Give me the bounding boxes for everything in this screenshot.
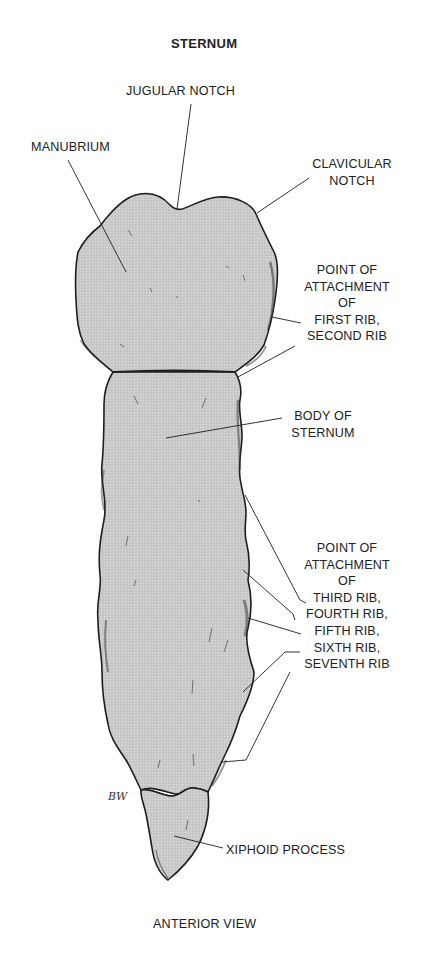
label-manubrium: MANUBRIUM <box>31 139 110 156</box>
label-line: POINT OF <box>293 262 401 279</box>
label-attachment-first-second-rib: POINT OF ATTACHMENT OF FIRST RIB, SECOND… <box>293 262 401 345</box>
label-line: FIRST RIB, <box>293 312 401 329</box>
label-line: ATTACHMENT <box>293 279 401 296</box>
label-line: SECOND RIB <box>293 328 401 345</box>
xiphoid-process-shape <box>141 788 209 880</box>
label-attachment-third-to-seventh-rib: POINT OF ATTACHMENT OF THIRD RIB, FOURTH… <box>293 540 401 673</box>
label-line: OF <box>293 573 401 590</box>
label-line: THIRD RIB, <box>293 590 401 607</box>
body-of-sternum-shape <box>98 372 254 794</box>
label-line: SEVENTH RIB <box>293 656 401 673</box>
label-line: STERNUM <box>283 425 363 442</box>
label-line: CLAVICULAR <box>300 156 404 173</box>
label-line: FOURTH RIB, <box>293 606 401 623</box>
sternum-diagram: BW STERNUM JUGULAR NOTCH MANUBRIUM CLAVI… <box>0 0 421 972</box>
label-xiphoid-process: XIPHOID PROCESS <box>226 842 345 859</box>
label-line: ATTACHMENT <box>293 557 401 574</box>
label-clavicular-notch: CLAVICULAR NOTCH <box>300 156 404 189</box>
label-body-of-sternum: BODY OF STERNUM <box>283 408 363 441</box>
label-line: POINT OF <box>293 540 401 557</box>
artist-signature: BW <box>107 790 129 803</box>
label-line: SIXTH RIB, <box>293 640 401 657</box>
figure-title: STERNUM <box>171 36 237 51</box>
figure-caption: ANTERIOR VIEW <box>153 917 256 931</box>
label-line: FIFTH RIB, <box>293 623 401 640</box>
label-jugular-notch: JUGULAR NOTCH <box>126 83 235 100</box>
label-line: NOTCH <box>300 173 404 190</box>
label-line: BODY OF <box>283 408 363 425</box>
label-line: OF <box>293 295 401 312</box>
manubrium-shape <box>76 193 278 372</box>
